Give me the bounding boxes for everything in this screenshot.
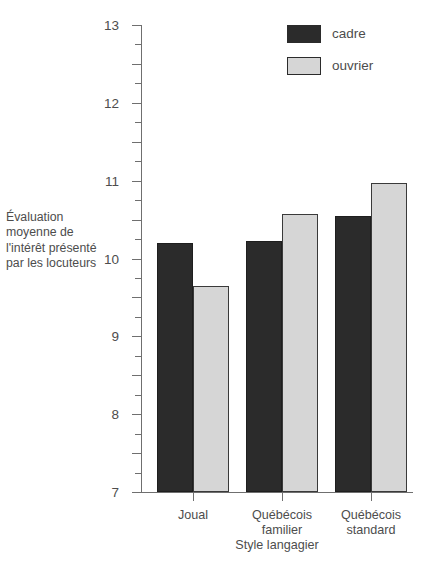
- y-tick-major: 7: [132, 259, 142, 260]
- x-axis-title: Style langagier: [141, 538, 413, 552]
- bar-ouvrier-0: [193, 286, 229, 492]
- y-tick-minor: [135, 161, 142, 162]
- bar-ouvrier-1: [282, 214, 318, 492]
- y-axis-title-line-2: moyenne de: [6, 225, 110, 240]
- y-tick-major: 3: [132, 414, 142, 415]
- y-axis-title: Évaluation moyenne de l'intérêt présenté…: [6, 210, 110, 272]
- y-axis-title-line-1: Évaluation: [6, 210, 110, 225]
- y-tick-minor: [135, 317, 142, 318]
- y-tick-minor: [135, 200, 142, 201]
- y-tick-minor: [135, 239, 142, 240]
- y-tick-minor: [135, 434, 142, 435]
- y-tick-major: 1: [132, 492, 142, 493]
- bar-chart: cadre ouvrier Évaluation moyenne de l'in…: [0, 0, 424, 563]
- y-tick-major: 13: [132, 25, 142, 26]
- y-tick-label: 7: [111, 485, 119, 500]
- y-tick-major: 4: [132, 375, 142, 376]
- y-tick-minor: [135, 395, 142, 396]
- y-tick-minor: [135, 122, 142, 123]
- y-tick-label: 10: [104, 251, 119, 266]
- x-category-label-2: Québécois standard: [341, 508, 401, 538]
- y-tick-label: 11: [105, 173, 119, 188]
- bar-cadre-2: [335, 216, 371, 492]
- bar-cadre-0: [157, 243, 193, 492]
- y-tick-major: 11: [132, 103, 142, 104]
- plot-area: 13121110987654321 JoualQuébécois familie…: [141, 25, 413, 492]
- bar-cadre-1: [246, 241, 282, 492]
- bar-ouvrier-2: [371, 183, 407, 492]
- y-axis-title-line-4: par les locuteurs: [6, 256, 110, 271]
- x-tick: [193, 492, 194, 501]
- y-tick-major: 5: [132, 336, 142, 337]
- y-tick-major: 12: [132, 64, 142, 65]
- y-tick-major: 10: [132, 142, 142, 143]
- y-tick-label: 13: [104, 18, 119, 33]
- y-tick-minor: [135, 44, 142, 45]
- y-tick-minor: [135, 356, 142, 357]
- x-category-label-0: Joual: [178, 508, 208, 523]
- x-tick: [282, 492, 283, 501]
- y-tick-major: 9: [132, 181, 142, 182]
- x-category-label-1: Québécois familier: [252, 508, 312, 538]
- y-tick-label: 12: [104, 95, 119, 110]
- y-tick-major: 6: [132, 297, 142, 298]
- y-tick-minor: [135, 83, 142, 84]
- y-tick-label: 9: [111, 329, 119, 344]
- y-tick-major: 2: [132, 453, 142, 454]
- y-tick-minor: [135, 473, 142, 474]
- y-tick-minor: [135, 278, 142, 279]
- x-tick: [371, 492, 372, 501]
- x-axis-line: [141, 492, 413, 493]
- y-tick-label: 8: [111, 407, 119, 422]
- y-axis-title-line-3: l'intérêt présenté: [6, 241, 110, 256]
- y-tick-major: 8: [132, 220, 142, 221]
